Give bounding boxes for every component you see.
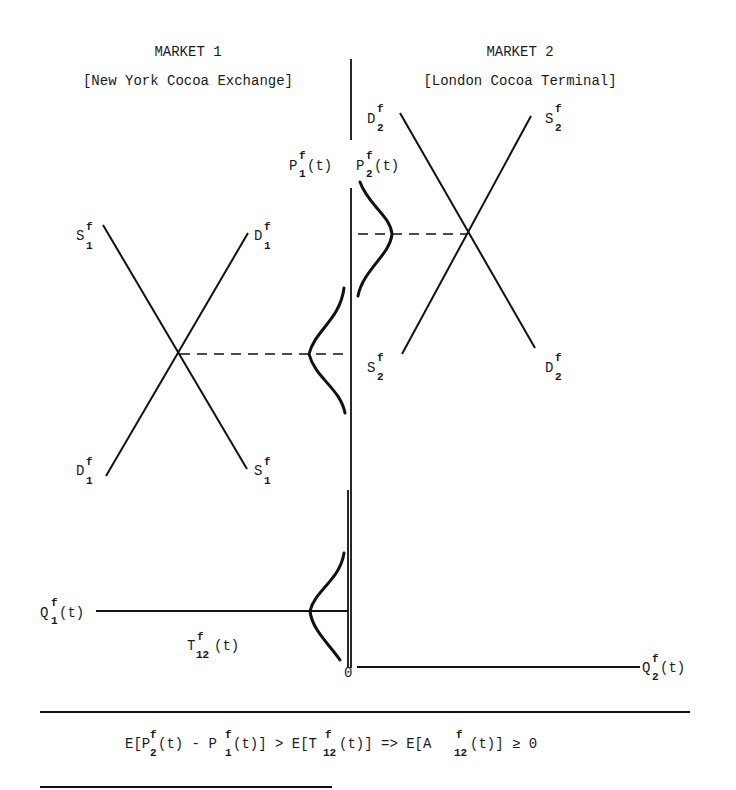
svg-text:2: 2 [555,371,562,383]
transport-cost-distribution-curve [310,553,344,660]
market2-title: MARKET 2 [486,44,553,60]
market1-title: MARKET 1 [154,44,221,60]
svg-text:1: 1 [86,240,93,252]
label-s2-top: S f 2 [545,103,562,134]
svg-text:1: 1 [299,168,306,180]
market1-subtitle: [New York Cocoa Exchange] [83,73,293,89]
svg-text:f: f [86,221,93,233]
svg-text:S: S [76,228,84,244]
svg-text:Q: Q [642,660,650,676]
svg-text:(t)] ≥ 0: (t)] ≥ 0 [470,736,537,752]
svg-text:f: f [555,352,562,364]
svg-text:2: 2 [150,747,157,759]
origin-label: 0 [344,665,352,681]
svg-text:f: f [264,221,271,233]
svg-text:2: 2 [366,168,373,180]
svg-text:S: S [545,111,553,127]
svg-text:f: f [299,150,306,162]
svg-text:(t) - P: (t) - P [158,736,217,752]
svg-text:D: D [545,360,553,376]
svg-text:T: T [187,638,195,654]
svg-text:(t): (t) [307,158,332,174]
svg-text:(t): (t) [374,158,399,174]
svg-text:D: D [367,111,375,127]
arbitrage-equation: E[P f 2 (t) - P f 1 (t)] > E[T f 12 (t)]… [125,729,537,759]
label-s1-top: S f 1 [76,221,93,252]
svg-text:f: f [456,729,463,741]
svg-text:12: 12 [323,747,336,759]
label-d1-bottom: D f 1 [76,456,93,487]
svg-text:D: D [76,463,84,479]
svg-text:E[P: E[P [125,736,150,752]
svg-text:1: 1 [86,475,93,487]
quantity-axis-label-2: Q f 2 (t) [642,653,685,683]
svg-text:f: f [51,597,58,609]
transport-cost-label: T f 12 (t) [187,631,239,661]
svg-text:f: f [197,631,204,643]
svg-text:(t): (t) [660,660,685,676]
svg-text:2: 2 [652,671,659,683]
quantity-axis-label-1: Q f 1 (t) [40,597,84,627]
label-d2-top: D f 2 [367,103,384,134]
svg-text:f: f [225,729,232,741]
svg-text:f: f [366,150,373,162]
svg-text:2: 2 [377,371,384,383]
arbitrage-diagram: MARKET 1 [New York Cocoa Exchange] MARKE… [0,0,736,790]
svg-text:f: f [86,456,93,468]
svg-text:f: f [377,103,384,115]
market1-demand-line [106,233,248,476]
svg-text:f: f [264,456,271,468]
svg-text:1: 1 [51,615,58,627]
svg-text:f: f [325,729,332,741]
label-d1-top: D f 1 [254,221,271,252]
svg-text:1: 1 [264,240,271,252]
svg-text:(t)] > E[T: (t)] > E[T [233,736,317,752]
market1-supply-line [103,225,247,469]
svg-text:(t): (t) [214,638,239,654]
label-s1-bottom: S f 1 [254,456,271,487]
market2-subtitle: [London Cocoa Terminal] [423,73,616,89]
svg-text:(t): (t) [59,605,84,621]
label-s2-bottom: S f 2 [367,352,384,383]
svg-text:S: S [367,360,375,376]
svg-text:2: 2 [377,122,384,134]
svg-text:12: 12 [454,747,467,759]
svg-text:f: f [377,352,384,364]
label-d2-bottom: D f 2 [545,352,562,383]
svg-text:f: f [150,729,157,741]
svg-text:(t)] => E[A: (t)] => E[A [339,736,432,752]
svg-text:D: D [254,228,262,244]
svg-text:P: P [356,158,364,174]
svg-text:12: 12 [196,649,209,661]
svg-text:2: 2 [555,122,562,134]
price-axis-label-1: P f 1 (t) [289,150,332,180]
svg-text:Q: Q [40,605,48,621]
svg-text:1: 1 [225,747,232,759]
svg-text:f: f [555,103,562,115]
market2-price-distribution-curve [358,182,392,296]
market1-price-distribution-curve [309,288,345,413]
price-axis-label-2: P f 2 (t) [356,150,399,180]
svg-text:S: S [254,463,262,479]
svg-text:P: P [289,158,297,174]
market2-demand-line [400,113,535,348]
svg-text:1: 1 [264,475,271,487]
svg-text:f: f [652,653,659,665]
